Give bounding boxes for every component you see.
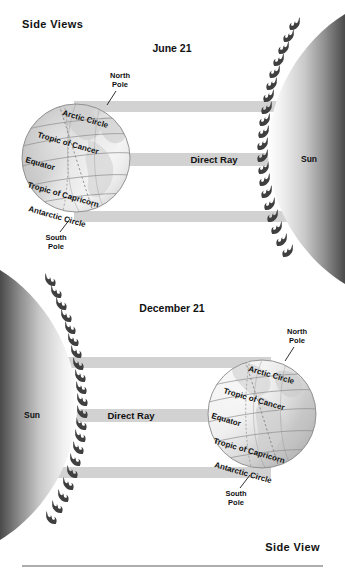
diagram-canvas: Side Views June 21 Direct Ray bbox=[0, 0, 345, 571]
north-pole-line2-december: Pole bbox=[289, 336, 305, 345]
north-pole-line1-december: North bbox=[287, 327, 307, 336]
side-views-figure: Side Views June 21 Direct Ray bbox=[0, 0, 345, 571]
south-pole-line1-june: South bbox=[45, 233, 67, 242]
south-pole-line2-december: Pole bbox=[228, 498, 244, 507]
date-label-december: December 21 bbox=[139, 302, 205, 314]
panel-june-21: Side Views June 21 Direct Ray bbox=[22, 14, 345, 284]
ray-direct-label-december: Direct Ray bbox=[108, 410, 156, 421]
ray-direct-label-june: Direct Ray bbox=[191, 154, 239, 165]
sun-label-june: Sun bbox=[301, 154, 317, 164]
south-pole-callout-june: South Pole bbox=[45, 219, 70, 251]
sun-december: Sun bbox=[0, 270, 88, 540]
sun-june: Sun bbox=[257, 14, 345, 284]
footer-caption: Side View bbox=[265, 541, 320, 553]
north-pole-callout-june: North Pole bbox=[107, 71, 130, 105]
globe-june: Arctic Circle Tropic of Cancer Equator T… bbox=[22, 71, 130, 251]
south-pole-line1-december: South bbox=[225, 489, 247, 498]
south-pole-callout-december: South Pole bbox=[225, 475, 250, 507]
north-pole-line1-june: North bbox=[110, 71, 130, 80]
south-pole-line2-june: Pole bbox=[48, 242, 64, 251]
north-pole-line2-june: Pole bbox=[112, 80, 128, 89]
globe-december: Arctic Circle Tropic of Cancer Equator T… bbox=[208, 327, 316, 507]
date-label-june: June 21 bbox=[152, 42, 191, 54]
north-pole-callout-december: North Pole bbox=[285, 327, 307, 361]
sun-label-december: Sun bbox=[24, 410, 40, 420]
page-heading: Side Views bbox=[22, 18, 83, 30]
panel-december-21: December 21 Direct Ray bbox=[0, 270, 316, 540]
north-pole-leader-december bbox=[285, 347, 294, 361]
